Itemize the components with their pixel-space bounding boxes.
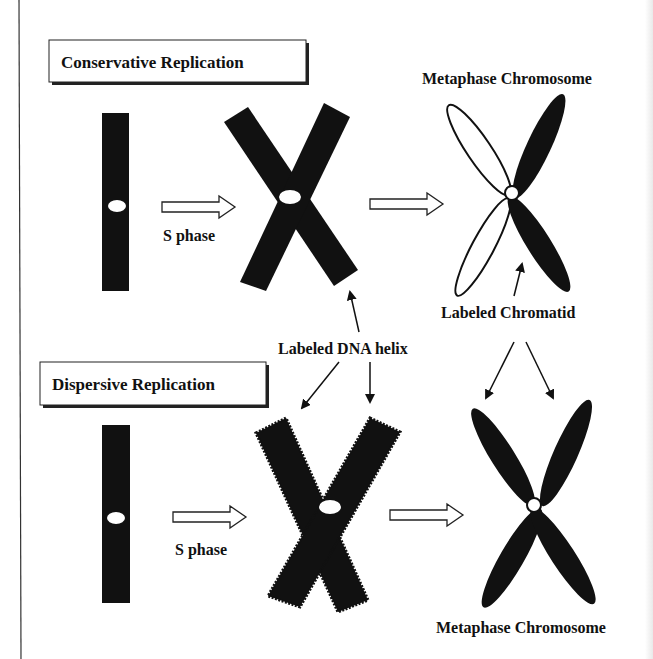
chromatid-pointer-left (486, 342, 514, 398)
unreplicated-chromosome-top (102, 113, 129, 291)
labeled-dna-helix-label: Labeled DNA helix (278, 340, 408, 357)
centromere-icon (108, 200, 126, 212)
dna-pointer-left (302, 362, 339, 408)
chromatid-pointer-arrow (514, 264, 522, 296)
labeled-dna-helix-annotation: Labeled DNA helix (278, 292, 408, 408)
conservative-title-box: Conservative Replication (49, 40, 309, 85)
conservative-title: Conservative Replication (61, 53, 244, 72)
metaphase-chromosome-conservative (439, 89, 579, 300)
unreplicated-chromosome-bottom (102, 425, 130, 603)
s-phase-arrow-top (162, 196, 235, 218)
centromere-icon (107, 512, 125, 524)
labeled-chromatid-label: Labeled Chromatid (441, 304, 575, 321)
metaphase-arrow-top (370, 193, 443, 215)
metaphase-chromosome-dispersive (463, 395, 604, 613)
dna-pointer-up (350, 292, 359, 332)
s-phase-label-top: S phase (163, 227, 215, 245)
frame-border-line (19, 0, 21, 659)
s-phase-arrow-bottom (173, 506, 246, 528)
replicated-chromosome-conservative (224, 103, 358, 291)
metaphase-arrow-bottom (390, 504, 463, 526)
replicated-chromosome-dispersive (256, 418, 400, 612)
dispersive-section: Dispersive Replication S phase Metaphase… (40, 362, 606, 637)
conservative-section: Conservative Replication S phase Metapha… (49, 40, 592, 321)
dispersive-title-box: Dispersive Replication (40, 362, 269, 408)
s-phase-label-bottom: S phase (175, 541, 227, 559)
chromatid-pointer-right (526, 342, 553, 398)
metaphase-label-bottom: Metaphase Chromosome (436, 619, 606, 637)
metaphase-label-top: Metaphase Chromosome (422, 70, 592, 88)
scan-edge-shadow (645, 0, 653, 659)
replication-diagram: Conservative Replication S phase Metapha… (0, 0, 653, 659)
dispersive-title: Dispersive Replication (52, 375, 215, 394)
